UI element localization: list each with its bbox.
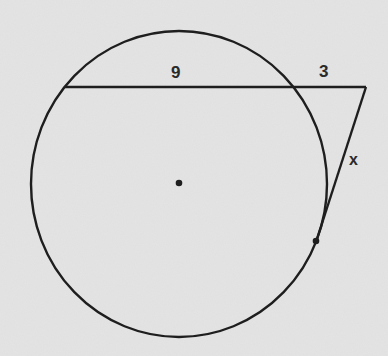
center-point: [176, 180, 183, 187]
paper-texture: [0, 0, 388, 356]
diagram-canvas: 9 3 x: [0, 0, 388, 356]
label-internal-segment: 9: [171, 64, 180, 81]
label-external-segment: 3: [319, 63, 328, 80]
label-tangent-segment: x: [349, 152, 358, 168]
geometry-figure: [0, 0, 388, 356]
tangent-point: [313, 238, 320, 245]
